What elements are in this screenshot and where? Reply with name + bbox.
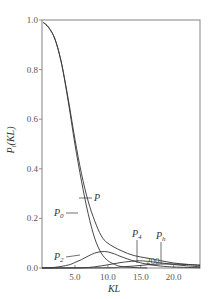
y-tick-label: 0.2 <box>27 213 38 223</box>
chart-canvas: 0.00.20.40.60.81.0 5.010.015.020.0 PP0P2… <box>0 0 213 299</box>
p-label: P <box>93 192 100 203</box>
y-tick-label: 0.8 <box>27 65 39 75</box>
p4-label: P4 <box>131 228 142 241</box>
y-tick-label: 0.4 <box>27 164 39 174</box>
curve-annotation-200: 200 <box>146 256 160 266</box>
x-tick-label: 10.0 <box>100 272 116 282</box>
data-series <box>42 23 200 269</box>
series-p-line <box>43 23 200 266</box>
p2-leader-line <box>66 255 80 257</box>
x-tick-label: 5.0 <box>69 272 81 282</box>
svg-text:Pi(KL): Pi(KL) <box>5 126 18 155</box>
ph-label: Ph <box>155 230 166 243</box>
y-tick-label: 0.6 <box>27 114 39 124</box>
curve-labels: PP0P2P4Ph200 <box>53 192 166 266</box>
x-axis-label: KL <box>107 283 121 294</box>
y-tick-label: 1.0 <box>27 15 39 25</box>
y-axis-label-rest: (KL) <box>5 126 17 146</box>
y-tick-label: 0.0 <box>27 263 39 273</box>
y-axis-label: Pi(KL) <box>5 126 18 155</box>
plot-frame <box>42 20 200 268</box>
x-tick-label: 15.0 <box>133 272 149 282</box>
p0-label: P0 <box>53 207 64 220</box>
series-p2-line <box>42 252 200 269</box>
p2-label: P2 <box>53 251 64 264</box>
x-tick-label: 20.0 <box>166 272 182 282</box>
plot-border <box>42 20 200 268</box>
y-axis-ticks: 0.00.20.40.60.81.0 <box>27 15 42 273</box>
y-axis-label-main: P <box>5 147 16 154</box>
